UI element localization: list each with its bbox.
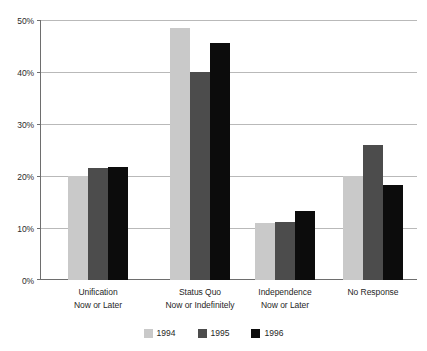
legend-item-1996[interactable]: 1996 (251, 329, 283, 338)
x-label-line1: Status Quo (179, 287, 221, 297)
x-label-line2: Now or Later (43, 299, 153, 312)
bar-1994[interactable] (68, 176, 88, 280)
legend: 1994 1995 1996 (0, 329, 427, 338)
bar-group (43, 20, 153, 280)
bar-1994[interactable] (255, 223, 275, 280)
bar-chart: 0% 10% 20% 30% 40% 50% (0, 0, 427, 351)
bar-1996[interactable] (210, 43, 230, 280)
bar-1995[interactable] (190, 72, 210, 280)
bar-1994[interactable] (343, 176, 363, 280)
bar-1995[interactable] (275, 222, 295, 280)
y-tick-label: 40% (4, 69, 34, 78)
bar-1996[interactable] (383, 185, 403, 280)
legend-label: 1995 (211, 329, 230, 338)
legend-item-1995[interactable]: 1995 (198, 329, 230, 338)
bar-1994[interactable] (170, 28, 190, 280)
bar-1995[interactable] (88, 168, 108, 280)
bar-group (318, 20, 427, 280)
y-tick-label: 30% (4, 121, 34, 130)
legend-swatch-icon (251, 329, 260, 338)
legend-swatch-icon (144, 329, 153, 338)
bar-groups (40, 20, 417, 280)
legend-swatch-icon (198, 329, 207, 338)
bar-1996[interactable] (108, 167, 128, 280)
x-label-line1: No Response (348, 287, 399, 297)
legend-item-1994[interactable]: 1994 (144, 329, 176, 338)
y-tick-label: 10% (4, 225, 34, 234)
bar-1995[interactable] (363, 145, 383, 280)
x-label-line2: Now or Later (230, 299, 340, 312)
y-tick-label: 20% (4, 173, 34, 182)
x-axis-labels: Unification Now or Later Status Quo Now … (40, 286, 417, 322)
legend-label: 1996 (264, 329, 283, 338)
x-label-line1: Unification (78, 287, 117, 297)
legend-label: 1994 (157, 329, 176, 338)
bar-1996[interactable] (295, 211, 315, 280)
x-label-no-response: No Response (318, 286, 427, 299)
y-tick-label: 50% (4, 17, 34, 26)
x-label-unification: Unification Now or Later (43, 286, 153, 311)
x-label-line1: Independence (258, 287, 311, 297)
y-tick-label: 0% (4, 277, 34, 286)
